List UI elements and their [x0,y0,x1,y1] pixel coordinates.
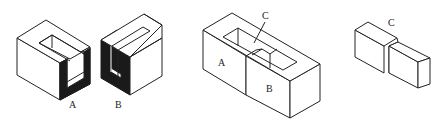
label-a: A [69,99,77,110]
piece-c: C [355,17,430,88]
label-c: C [388,17,395,28]
piece-c-end [418,58,430,88]
label-c-pointer: C [262,10,269,21]
puzzle-diagram: A B C [0,0,441,124]
assembled-block: C A B [203,10,320,118]
block-b: B [101,14,162,110]
label-b: B [115,99,122,110]
label-a-assembled: A [218,57,226,68]
block-a: A [17,20,90,110]
label-b-assembled: B [266,83,273,94]
